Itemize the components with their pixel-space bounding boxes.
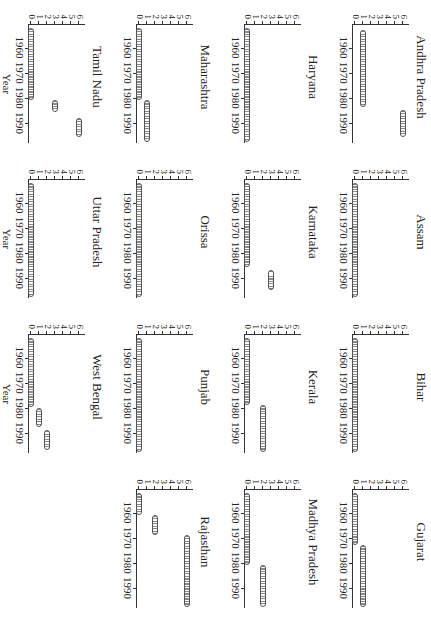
- y-tick-label: 6: [399, 476, 409, 484]
- y-tick: [254, 331, 255, 335]
- y-tick: [62, 21, 63, 25]
- x-tick-label: 1970: [230, 527, 242, 549]
- x-tick-label: 1980: [14, 397, 26, 419]
- y-tick: [246, 331, 247, 335]
- data-series-segment: [136, 338, 142, 453]
- y-tick: [78, 176, 79, 180]
- y-tick-label: 6: [75, 166, 85, 174]
- y-tick: [378, 486, 379, 490]
- data-series-segment: [184, 535, 190, 607]
- y-tick: [146, 21, 147, 25]
- y-tick: [386, 331, 387, 335]
- panel-title: Uttar Pradesh: [89, 157, 105, 307]
- y-tick: [370, 486, 371, 490]
- data-series-segment: [52, 100, 58, 112]
- y-tick: [70, 21, 71, 25]
- x-tick-label: 1980: [338, 242, 350, 264]
- plot-area: 01234561960197019801990Year: [28, 24, 85, 143]
- y-tick: [162, 486, 163, 490]
- y-tick: [46, 21, 47, 25]
- panel-west-bengal: West Bengal01234561960197019801990Year: [3, 312, 107, 462]
- y-tick: [394, 486, 395, 490]
- panel-karnataka: Karnataka01234561960197019801990: [219, 157, 323, 307]
- y-tick: [286, 21, 287, 25]
- data-series-segment: [352, 493, 358, 545]
- x-tick-label: 1980: [14, 87, 26, 109]
- y-tick: [402, 21, 403, 25]
- y-tick-label: 6: [183, 166, 193, 174]
- y-tick: [70, 331, 71, 335]
- x-tick-label: 1970: [230, 217, 242, 239]
- x-tick-label: 1970: [122, 527, 134, 549]
- data-series-segment: [352, 183, 358, 298]
- data-series-segment: [400, 110, 406, 137]
- panel-gujarat: Gujarat01234561960197019801990: [327, 467, 431, 617]
- x-tick-label: 1980: [338, 552, 350, 574]
- plot-area: 01234561960197019801990: [136, 489, 193, 608]
- y-tick: [262, 331, 263, 335]
- y-tick: [138, 176, 139, 180]
- x-tick-label: 1970: [14, 62, 26, 84]
- y-tick: [362, 176, 363, 180]
- y-tick: [354, 176, 355, 180]
- data-series-segment: [144, 100, 150, 142]
- x-tick-label: 1980: [122, 242, 134, 264]
- panel-kerala: Kerala01234561960197019801990: [219, 312, 323, 462]
- y-tick: [270, 486, 271, 490]
- y-tick: [186, 486, 187, 490]
- x-tick-label: 1980: [338, 397, 350, 419]
- y-tick-label: 6: [75, 11, 85, 19]
- y-tick: [394, 21, 395, 25]
- data-series-segment: [260, 565, 266, 607]
- x-tick-label: 1990: [338, 422, 350, 444]
- y-tick: [38, 21, 39, 25]
- plot-area: 01234561960197019801990: [352, 24, 409, 143]
- x-tick-label: 1970: [230, 372, 242, 394]
- panel-title: Orissa: [197, 157, 213, 307]
- y-tick: [354, 21, 355, 25]
- y-tick: [162, 21, 163, 25]
- data-series-segment: [136, 28, 142, 100]
- plot-area: 01234561960197019801990Year: [28, 179, 85, 298]
- panel-orissa: Orissa01234561960197019801990: [111, 157, 215, 307]
- data-series-segment: [244, 493, 250, 565]
- x-tick-label: 1990: [230, 267, 242, 289]
- panel-assam: Assam01234561960197019801990: [327, 157, 431, 307]
- y-tick-label: 6: [399, 321, 409, 329]
- x-tick-label: 1960: [230, 502, 242, 524]
- plot-area: 01234561960197019801990Year: [28, 334, 85, 453]
- y-tick: [62, 331, 63, 335]
- y-tick: [154, 486, 155, 490]
- data-series-segment: [136, 493, 142, 515]
- y-tick: [370, 21, 371, 25]
- panel-title: Maharashtra: [197, 2, 213, 152]
- y-tick: [254, 21, 255, 25]
- y-tick: [294, 486, 295, 490]
- panel-maharashtra: Maharashtra01234561960197019801990: [111, 2, 215, 152]
- y-tick: [362, 486, 363, 490]
- y-tick: [354, 486, 355, 490]
- y-tick: [170, 21, 171, 25]
- y-tick: [146, 331, 147, 335]
- small-multiples-chart: Andhra Pradesh01234561960197019801990Ass…: [0, 0, 431, 619]
- x-tick-label: 1980: [230, 87, 242, 109]
- y-tick: [246, 176, 247, 180]
- x-tick-label: 1960: [338, 347, 350, 369]
- y-tick: [170, 176, 171, 180]
- y-tick: [170, 486, 171, 490]
- y-tick: [294, 176, 295, 180]
- x-tick-label: 1970: [230, 62, 242, 84]
- x-tick-label: 1960: [230, 37, 242, 59]
- x-tick-label: 1970: [122, 217, 134, 239]
- y-tick: [370, 331, 371, 335]
- x-tick-label: 1970: [338, 62, 350, 84]
- y-tick: [354, 331, 355, 335]
- x-tick-label: 1960: [14, 192, 26, 214]
- y-tick: [278, 486, 279, 490]
- y-tick: [186, 176, 187, 180]
- panel-title: Kerala: [305, 312, 321, 462]
- x-tick-label: 1990: [122, 422, 134, 444]
- data-series-segment: [260, 405, 266, 452]
- panel-andhra-pradesh: Andhra Pradesh01234561960197019801990: [327, 2, 431, 152]
- x-tick-label: 1970: [338, 372, 350, 394]
